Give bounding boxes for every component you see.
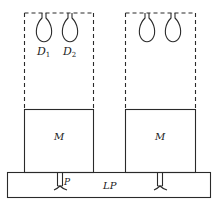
- label-d1: D1: [36, 45, 50, 59]
- drop-right-2-icon: [165, 13, 180, 42]
- diagram-canvas: D1 D2 M M P LP: [0, 0, 217, 209]
- drop-d2-icon: [62, 13, 77, 42]
- label-peg: P: [63, 177, 71, 187]
- label-mass-left: M: [53, 131, 65, 142]
- drop-right-1-icon: [139, 13, 154, 42]
- label-d2: D2: [62, 45, 76, 59]
- label-mass-right: M: [154, 131, 166, 142]
- drop-d1-icon: [36, 13, 51, 42]
- label-base: LP: [102, 180, 117, 191]
- peg-right-icon: [154, 173, 167, 190]
- right-dashed-enclosure: [126, 13, 196, 108]
- left-dashed-enclosure: [25, 13, 94, 108]
